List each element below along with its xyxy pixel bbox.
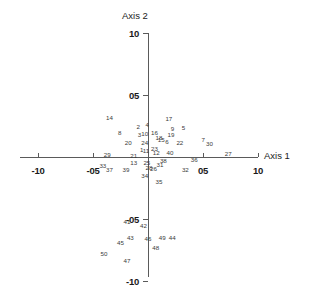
data-point-label: 29 [104, 152, 111, 158]
y-tick-label: 10 [129, 28, 139, 39]
data-point-label: 4 [145, 122, 148, 128]
data-point-label: 13 [130, 160, 137, 166]
y-tick-mark [143, 33, 148, 34]
data-point-label: 39 [123, 167, 130, 173]
data-point-label: 45 [117, 240, 124, 246]
y-tick-mark [143, 281, 148, 282]
data-point-label: 23 [151, 146, 158, 152]
data-point-label: 10 [141, 131, 148, 137]
x-axis-title: Axis 1 [264, 150, 290, 161]
data-point-label: 22 [176, 140, 183, 146]
y-tick-mark [143, 219, 148, 220]
data-point-label: 36 [191, 157, 198, 163]
data-point-label: 8 [118, 130, 121, 136]
data-point-label: 43 [127, 235, 134, 241]
data-point-label: 38 [160, 158, 167, 164]
y-tick-label: -10 [126, 276, 139, 287]
data-point-label: 50 [101, 251, 108, 257]
x-tick-label: 10 [253, 165, 263, 176]
x-axis-line [20, 157, 258, 158]
x-tick-label: -10 [32, 165, 45, 176]
data-point-label: 44 [169, 235, 176, 241]
data-point-label: 40 [167, 150, 174, 156]
data-point-label: 24 [141, 140, 148, 146]
x-tick-mark [258, 153, 259, 157]
x-tick-mark [93, 153, 94, 157]
y-tick-label: 05 [129, 90, 139, 101]
data-point-label: 21 [130, 153, 137, 159]
data-point-label: 20 [125, 140, 132, 146]
x-tick-mark [203, 153, 204, 157]
data-point-label: 41 [124, 219, 131, 225]
data-point-label: 17 [165, 116, 172, 122]
data-point-label: 11 [143, 148, 149, 154]
data-point-label: 35 [156, 179, 163, 185]
data-point-label: 18 [156, 135, 163, 141]
data-point-label: 46 [145, 236, 152, 242]
data-point-label: 37 [106, 167, 113, 173]
data-point-label: 34 [141, 173, 148, 179]
data-point-label: 28 [146, 165, 153, 171]
y-axis-title: Axis 2 [122, 10, 148, 21]
data-point-label: 5 [182, 125, 185, 131]
data-point-label: 7 [202, 137, 205, 143]
y-tick-mark [143, 95, 148, 96]
x-tick-label: 05 [198, 165, 208, 176]
scatter-plot-canvas: Axis 1 Axis 2 -10-0505101005-05-10123456… [0, 0, 309, 297]
data-point-label: 27 [225, 151, 232, 157]
data-point-label: 42 [140, 223, 147, 229]
data-point-label: 14 [106, 115, 113, 121]
data-point-label: 32 [182, 167, 189, 173]
data-point-label: 48 [152, 245, 159, 251]
x-tick-label: -05 [87, 165, 100, 176]
data-point-label: 49 [159, 235, 166, 241]
data-point-label: 6 [165, 139, 168, 145]
data-point-label: 47 [124, 258, 131, 264]
data-point-label: 2 [137, 124, 140, 130]
data-point-label: 30 [206, 141, 213, 147]
data-point-label: 19 [168, 132, 175, 138]
x-tick-mark [38, 153, 39, 157]
